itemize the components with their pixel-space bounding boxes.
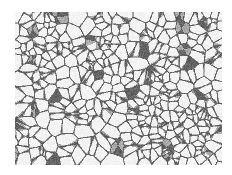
grain-structure-canvas xyxy=(15,12,222,165)
micrograph-image xyxy=(15,12,222,165)
